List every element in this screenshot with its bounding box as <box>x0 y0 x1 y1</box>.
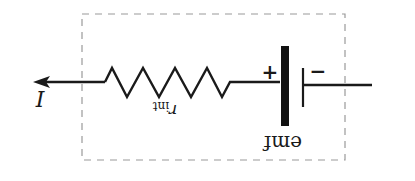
battery-positive-plate <box>281 46 289 126</box>
emf-label-group: emf <box>262 131 302 155</box>
internal-resistance-subscript: int <box>153 99 170 113</box>
circuit-diagram: + − I emf rint <box>0 0 415 181</box>
current-label: I <box>35 87 46 112</box>
internal-resistor <box>105 68 280 97</box>
negative-terminal-label: − <box>310 59 327 83</box>
internal-resistance-label-group: rint <box>153 99 178 121</box>
emf-label: emf <box>262 131 302 155</box>
svg-text:rint: rint <box>153 99 178 121</box>
positive-terminal-label: + <box>262 60 279 84</box>
